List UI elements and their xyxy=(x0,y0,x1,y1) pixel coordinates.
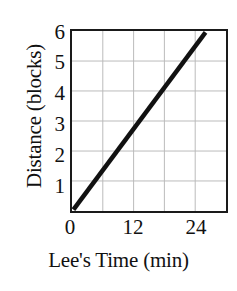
chart-figure: Distance (blocks) 6 5 4 3 2 1 0 12 24 Le… xyxy=(0,0,237,291)
x-tick-label-12: 12 xyxy=(111,217,155,238)
x-tick-label-0: 0 xyxy=(48,217,92,238)
y-tick-label-1: 1 xyxy=(25,176,65,197)
y-tick-label-2: 2 xyxy=(25,145,65,166)
plot-area xyxy=(70,29,228,213)
y-tick-label-6: 6 xyxy=(25,22,65,43)
data-series-lee xyxy=(72,31,226,211)
x-axis-title: Lee's Time (min) xyxy=(0,248,237,273)
y-tick-label-3: 3 xyxy=(25,114,65,135)
x-tick-label-24: 24 xyxy=(174,217,218,238)
y-tick-label-5: 5 xyxy=(25,52,65,73)
y-tick-label-4: 4 xyxy=(25,83,65,104)
